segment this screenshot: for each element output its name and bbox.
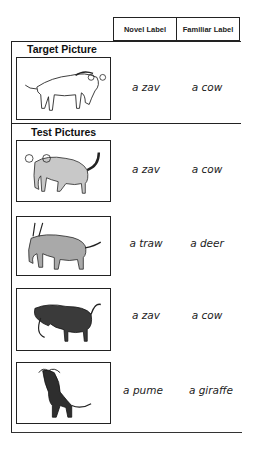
test-picture-3: [16, 288, 111, 351]
test-4-familiar-label: a giraffe: [189, 384, 233, 396]
gray-animal-straight-horns-icon: [17, 217, 110, 275]
test-picture-4: [16, 362, 111, 424]
dark-textured-animal-icon: [17, 289, 110, 350]
test-picture-2: [16, 216, 111, 276]
target-picture-title: Target Picture: [27, 43, 97, 55]
test-picture-1: [16, 140, 111, 202]
target-picture: [16, 57, 111, 120]
dark-textured-tall-animal-icon: [17, 363, 110, 423]
test-4-novel-label: a pume: [123, 384, 163, 396]
test-2-novel-label: a traw: [129, 237, 162, 249]
familiar-label-header: Familiar Label: [176, 18, 239, 40]
test-1-novel-label: a zav: [132, 163, 160, 175]
test-2-familiar-label: a deer: [190, 237, 224, 249]
target-novel-label: a zav: [132, 81, 160, 93]
target-familiar-label: a cow: [192, 81, 223, 93]
test-3-novel-label: a zav: [132, 309, 160, 321]
section-divider: [11, 123, 241, 124]
line-drawn-animal-icon: [17, 58, 110, 119]
test-1-familiar-label: a cow: [192, 163, 223, 175]
test-3-familiar-label: a cow: [192, 309, 223, 321]
novel-label-header: Novel Label: [114, 18, 176, 40]
frame-top-rule: [11, 41, 241, 42]
frame-left-rule: [11, 41, 12, 433]
frame-bottom-rule: [11, 432, 242, 433]
gray-animal-spiral-horns-icon: [17, 141, 110, 201]
test-pictures-title: Test Pictures: [31, 126, 96, 138]
column-header: Novel Label Familiar Label: [113, 17, 240, 41]
